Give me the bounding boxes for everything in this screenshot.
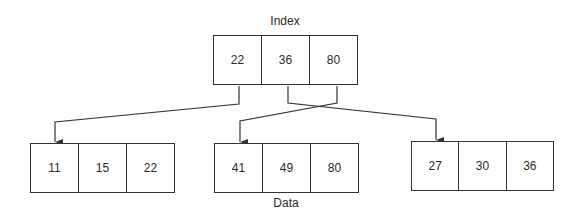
index-key: 36 xyxy=(262,36,310,84)
edge-36-to-block-3 xyxy=(288,86,436,140)
data-key: 80 xyxy=(311,144,358,192)
data-key: 30 xyxy=(459,142,506,190)
data-key: 22 xyxy=(127,144,174,192)
data-key: 49 xyxy=(263,144,311,192)
data-key: 36 xyxy=(507,142,553,190)
data-key: 41 xyxy=(215,144,263,192)
data-label: Data xyxy=(246,196,326,210)
data-block-3: 27 30 36 xyxy=(411,141,554,191)
index-key: 80 xyxy=(310,36,357,84)
data-key: 11 xyxy=(31,144,79,192)
data-block-2: 41 49 80 xyxy=(214,143,359,193)
data-key: 27 xyxy=(412,142,459,190)
data-key: 15 xyxy=(79,144,127,192)
index-key: 22 xyxy=(214,36,262,84)
index-label: Index xyxy=(245,14,325,28)
index-node: 22 36 80 xyxy=(213,35,358,85)
data-block-1: 11 15 22 xyxy=(30,143,175,193)
edge-22-to-block-1 xyxy=(55,86,239,142)
